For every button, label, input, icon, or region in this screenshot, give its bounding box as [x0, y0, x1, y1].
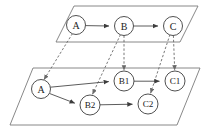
node-lower-b1-label: B1: [119, 76, 130, 86]
node-upper-b-label: B: [121, 21, 128, 32]
node-lower-c2[interactable]: C2: [138, 94, 158, 114]
node-upper-c[interactable]: C: [164, 17, 183, 36]
edge-B2-to-C2: [100, 104, 133, 105]
edge-A2-to-B1: [50, 82, 109, 88]
lower-nodes-group: A B1 C1 B2 C2: [32, 71, 186, 115]
node-upper-b[interactable]: B: [115, 17, 134, 36]
node-lower-a[interactable]: A: [32, 80, 51, 99]
edge-A2-to-B2: [49, 93, 75, 103]
graph-abstraction-diagram: A B C A B1 C1: [0, 0, 208, 133]
node-lower-a-label: A: [37, 84, 45, 95]
node-lower-c1-label: C1: [170, 76, 181, 86]
node-upper-c-label: C: [170, 21, 177, 32]
node-lower-c2-label: C2: [143, 99, 154, 109]
upper-nodes-group: A B C: [67, 16, 183, 36]
node-lower-b2[interactable]: B2: [80, 95, 100, 115]
node-upper-a[interactable]: A: [67, 16, 86, 35]
node-upper-a-label: A: [72, 20, 80, 31]
graph-edges-group: [49, 26, 159, 105]
node-lower-b1[interactable]: B1: [114, 71, 134, 91]
projection-edges-group: [44, 34, 175, 95]
projection-C-to-C1: [173, 36, 174, 71]
node-lower-b2-label: B2: [85, 100, 96, 110]
diagram-canvas: A B C A B1 C1: [0, 0, 208, 133]
node-lower-c1[interactable]: C1: [165, 71, 185, 91]
projection-A-to-A2: [44, 34, 73, 80]
